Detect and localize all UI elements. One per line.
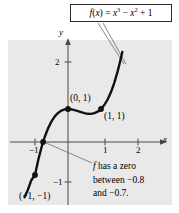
- point-label-0-1: (0, 1): [70, 94, 91, 104]
- x-tick-label-1: 1: [103, 146, 108, 155]
- note-line-1-rest: has a zero: [96, 161, 136, 171]
- formula-plus: +: [140, 8, 145, 18]
- point-label-1-1: (1, 1): [104, 112, 125, 122]
- x-axis-label: x: [163, 135, 167, 144]
- x-tick-label-neg1: −1: [29, 146, 39, 155]
- formula-term2-exp: 2: [135, 7, 138, 13]
- y-axis-label: y: [59, 28, 63, 37]
- y-axis: [65, 38, 71, 205]
- point-neg-one-neg-one: [32, 172, 38, 178]
- y-tick-label-2: 2: [55, 58, 60, 67]
- y-tick-label-neg1: −1: [53, 178, 63, 187]
- formula-constant: 1: [148, 8, 153, 18]
- point-label-neg1-neg1: (−1, −1): [19, 192, 50, 202]
- note-line-2: between −0.8: [93, 174, 177, 188]
- formula-minus: −: [123, 8, 128, 18]
- formula-text: f(x) = x3 − x2 + 1: [90, 8, 153, 18]
- figure-root: f(x) = x3 − x2 + 1 x y −1 1 2 2 −1 (0, 1…: [0, 0, 179, 213]
- note-line-1: f has a zero: [93, 160, 177, 174]
- zero-annotation: f has a zero between −0.8 and −0.7.: [93, 160, 177, 201]
- formula-box: f(x) = x3 − x2 + 1: [70, 4, 172, 22]
- x-axis: [10, 139, 167, 145]
- note-line-3: and −0.7.: [93, 187, 177, 201]
- point-zero-crossing: [40, 139, 46, 145]
- formula-term1-exp: 3: [117, 7, 120, 13]
- x-tick-label-2: 2: [136, 146, 141, 155]
- point-origin-one: [65, 106, 71, 112]
- formula-paren-close: ): [100, 8, 103, 18]
- formula-equals: =: [105, 8, 110, 18]
